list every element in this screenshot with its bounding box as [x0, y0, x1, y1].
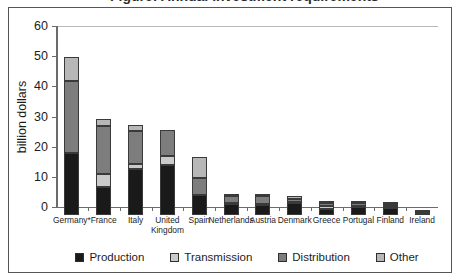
bar-france [96, 119, 111, 215]
bar-segment-production [192, 195, 207, 215]
x-axis-label: Spain [189, 216, 210, 226]
bar-segment-other [319, 201, 334, 203]
plot-area: 0102030405060 Germany*FranceItalyUnited … [56, 26, 438, 216]
x-axis-tick [374, 207, 375, 211]
x-axis-label: Germany* [53, 216, 91, 226]
bar-segment-other [415, 210, 430, 212]
x-axis-label: Netherlands [208, 216, 253, 226]
legend-label: Production [89, 251, 144, 263]
x-axis-label: United Kingdom [151, 216, 184, 235]
bar-segment-distribution [319, 203, 334, 206]
y-axis-tick-label: 20 [34, 140, 48, 154]
cut-off-title: Figure: Annual investment requirements [110, 0, 379, 4]
legend-item-transmission[interactable]: Transmission [170, 251, 252, 263]
bar-germany [64, 57, 79, 215]
legend-item-distribution[interactable]: Distribution [278, 251, 350, 263]
bar-segment-distribution [224, 196, 239, 203]
x-axis-label: Finland [377, 216, 404, 226]
x-axis-label: France [91, 216, 117, 226]
bar-united-kingdom [160, 130, 175, 214]
y-axis-tick [52, 117, 56, 118]
x-axis-tick [343, 207, 344, 211]
plot-top-rule [56, 26, 438, 27]
y-axis-tick-label: 50 [34, 49, 48, 63]
legend-item-production[interactable]: Production [75, 251, 144, 263]
x-axis-tick [279, 207, 280, 211]
y-axis-tick-label: 40 [34, 79, 48, 93]
bar-segment-other [255, 194, 270, 196]
bar-segment-transmission [160, 156, 175, 165]
bar-segment-distribution [383, 204, 398, 207]
y-axis-title: billion dollars [14, 26, 30, 208]
y-axis-tick [52, 86, 56, 87]
legend-swatch-icon [278, 253, 287, 262]
x-axis-tick [215, 207, 216, 211]
chart-legend: ProductionTransmissionDistributionOther [56, 249, 438, 265]
bar-italy [128, 125, 143, 215]
bar-segment-production [383, 208, 398, 215]
y-axis-tick [52, 147, 56, 148]
x-axis-label: Austria [250, 216, 276, 226]
x-axis-tick [183, 207, 184, 211]
legend-swatch-icon [75, 253, 84, 262]
bar-segment-production [160, 165, 175, 214]
bar-segment-production [351, 207, 366, 214]
x-axis-label: Portugal [343, 216, 374, 226]
x-axis-label: Denmark [278, 216, 312, 226]
y-axis-tick-label: 60 [34, 19, 48, 33]
bar-finland [383, 202, 398, 214]
bar-segment-distribution [192, 178, 207, 194]
bar-segment-distribution [351, 203, 366, 205]
legend-swatch-icon [376, 253, 385, 262]
legend-item-other[interactable]: Other [376, 251, 419, 263]
bar-segment-other [383, 202, 398, 204]
x-axis-tick [406, 207, 407, 211]
x-axis-tick [120, 207, 121, 211]
y-axis-line [56, 26, 58, 208]
x-axis-tick [88, 207, 89, 211]
bar-austria [255, 194, 270, 214]
bar-segment-production [319, 209, 334, 214]
legend-label: Distribution [292, 251, 350, 263]
bar-segment-production [287, 203, 302, 214]
bar-segment-distribution [96, 126, 111, 174]
legend-label: Other [390, 251, 419, 263]
bar-segment-production [128, 169, 143, 215]
bar-segment-other [287, 196, 302, 198]
x-axis-tick [247, 207, 248, 211]
figure-chart: Figure: Annual investment requirements b… [0, 0, 461, 280]
y-axis-tick [52, 207, 56, 208]
bar-segment-distribution [64, 81, 79, 153]
x-axis-label: Italy [128, 216, 143, 226]
x-axis-label: Ireland [409, 216, 435, 226]
bar-segment-distribution [128, 131, 143, 164]
bar-segment-distribution [255, 196, 270, 204]
bar-segment-other [224, 194, 239, 196]
bar-segment-transmission [96, 174, 111, 187]
bar-denmark [287, 196, 302, 214]
y-axis-tick [52, 177, 56, 178]
bar-segment-other [96, 119, 111, 126]
bar-segment-production [96, 187, 111, 215]
y-axis-tick-label: 10 [34, 170, 48, 184]
cut-off-title-clip: Figure: Annual investment requirements [0, 0, 461, 6]
y-axis-tick [52, 26, 56, 27]
bar-segment-other [192, 157, 207, 179]
bar-segment-other [128, 125, 143, 132]
bar-segment-production [224, 204, 239, 215]
legend-label: Transmission [184, 251, 252, 263]
bar-greece [319, 202, 334, 215]
bar-segment-transmission [319, 206, 334, 209]
bar-segment-production [255, 205, 270, 215]
y-axis-tick-label: 0 [41, 200, 48, 214]
bar-segment-production [64, 153, 79, 214]
x-axis-label: Greece [313, 216, 340, 226]
bar-spain [192, 157, 207, 215]
y-axis-tick [52, 56, 56, 57]
bar-segment-other [351, 201, 366, 203]
bar-netherlands [224, 194, 239, 214]
y-axis-title-text: billion dollars [15, 81, 29, 153]
x-axis-tick [152, 207, 153, 211]
bar-portugal [351, 202, 366, 215]
bar-segment-distribution [160, 130, 175, 156]
